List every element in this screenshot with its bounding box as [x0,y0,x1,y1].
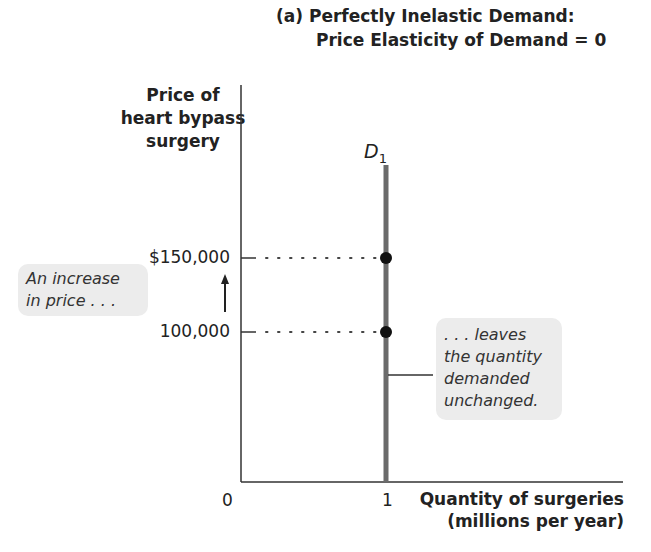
demand-label-d1: D1 [364,140,387,166]
x-tick-label-0: 0 [222,490,233,510]
annotation-2-line-3: demanded [444,368,554,390]
annotation-2-line-2: the quantity [444,346,554,368]
point-150000 [380,252,392,264]
demand-label-sub: 1 [379,151,387,166]
y-tick-label-100000: 100,000 [110,321,230,341]
x-axis-label-line-2: (millions per year) [400,510,624,532]
annotation-1-line-2: in price . . . [26,290,140,312]
annotation-2-line-1: . . . leaves [444,324,554,346]
annotation-1-line-1: An increase [26,268,140,290]
x-axis-label: Quantity of surgeries (millions per year… [400,488,624,532]
point-100000 [380,326,392,338]
arrow-head-icon [221,274,229,284]
annotation-2-line-4: unchanged. [444,390,554,412]
annotation-price-increase: An increase in price . . . [18,264,148,316]
demand-label-main: D [364,140,379,162]
x-axis-label-line-1: Quantity of surgeries [400,488,624,510]
x-tick-label-1: 1 [382,490,393,510]
annotation-quantity-unchanged: . . . leaves the quantity demanded uncha… [436,318,562,420]
